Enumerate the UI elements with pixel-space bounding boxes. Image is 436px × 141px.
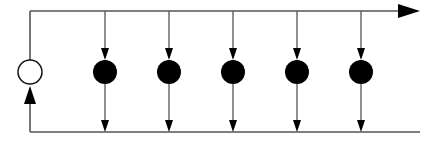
down-arrowhead-icon xyxy=(293,48,301,60)
filled-node-5 xyxy=(349,60,373,84)
down-arrowhead-icon xyxy=(101,120,109,132)
down-arrowhead-icon xyxy=(101,48,109,60)
flow-diagram xyxy=(0,0,436,141)
down-arrowhead-icon xyxy=(165,48,173,60)
down-arrowhead-icon xyxy=(293,120,301,132)
down-arrowhead-icon xyxy=(229,120,237,132)
filled-node-2 xyxy=(157,60,181,84)
down-arrowhead-icon xyxy=(357,120,365,132)
down-arrowhead-icon xyxy=(165,120,173,132)
up-arrowhead-icon xyxy=(24,86,36,104)
down-arrowhead-icon xyxy=(357,48,365,60)
filled-node-1 xyxy=(93,60,117,84)
down-arrowhead-icon xyxy=(229,48,237,60)
filled-node-3 xyxy=(221,60,245,84)
top-arrowhead-icon xyxy=(398,4,420,18)
filled-node-4 xyxy=(285,60,309,84)
open-source-node xyxy=(18,60,42,84)
